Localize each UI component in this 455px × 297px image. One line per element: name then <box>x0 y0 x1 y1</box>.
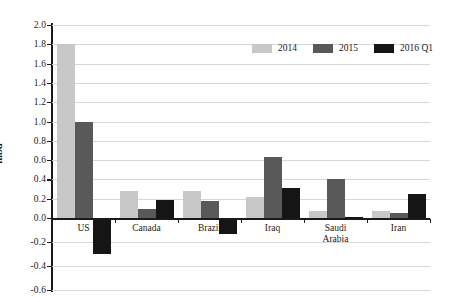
legend-swatch <box>374 44 394 53</box>
y-axis-tick-label: -0.2 <box>4 237 46 247</box>
legend-item: 2016 Q1 <box>374 43 433 53</box>
x-axis-tick <box>304 219 305 223</box>
y-axis-tick-label: 0.0 <box>4 213 46 223</box>
gridline <box>52 266 430 267</box>
gridline <box>52 102 430 103</box>
bar <box>201 201 219 218</box>
plot-area <box>52 25 430 290</box>
y-axis-tick-label: -0.4 <box>4 261 46 271</box>
legend-swatch <box>313 44 333 53</box>
gridline <box>52 160 430 161</box>
x-axis-category-label: Iran <box>359 223 439 234</box>
x-axis-tick <box>367 219 368 223</box>
bar <box>246 197 264 218</box>
legend-label: 2015 <box>339 43 358 53</box>
legend-label: 2016 Q1 <box>400 43 433 53</box>
bar <box>408 194 426 218</box>
bar <box>183 191 201 218</box>
x-axis-tick <box>52 219 53 223</box>
y-axis-tick <box>47 160 51 161</box>
bar <box>57 44 75 218</box>
gridline <box>52 83 430 84</box>
y-axis-tick-label: 0.2 <box>4 194 46 204</box>
gridline <box>52 199 430 200</box>
gridline <box>52 290 430 291</box>
x-axis-tick <box>430 219 431 223</box>
bar <box>327 179 345 218</box>
legend-label: 2014 <box>278 43 297 53</box>
bar <box>75 122 93 219</box>
y-axis-tick <box>47 44 51 45</box>
y-axis-tick <box>47 64 51 65</box>
gridline <box>52 122 430 123</box>
bar <box>138 209 156 218</box>
legend-swatch <box>252 44 272 53</box>
legend-item: 2015 <box>313 43 358 53</box>
y-axis-tick <box>47 25 51 26</box>
y-axis-tick <box>47 122 51 123</box>
y-axis-tick-label: 1.0 <box>4 117 46 127</box>
legend-item: 2014 <box>252 43 297 53</box>
bar <box>264 157 282 218</box>
y-axis-tick <box>47 141 51 142</box>
chart-legend: 201420152016 Q1 <box>252 43 449 53</box>
y-axis-tick <box>47 199 51 200</box>
y-axis-tick <box>47 218 51 219</box>
y-axis-tick-label: 1.2 <box>4 97 46 107</box>
bar <box>309 211 327 218</box>
gridline <box>52 64 430 65</box>
x-axis-tick <box>241 219 242 223</box>
y-axis-tick-label: 1.8 <box>4 39 46 49</box>
bar <box>282 188 300 218</box>
y-axis-tick <box>47 83 51 84</box>
bar <box>120 191 138 218</box>
gridline <box>52 25 430 26</box>
y-axis-labels: 2.01.81.61.41.21.00.80.60.40.20.0-0.2-0.… <box>0 0 46 297</box>
y-axis-tick-label: 0.4 <box>4 174 46 184</box>
y-axis-tick <box>47 266 51 267</box>
y-axis-title: mbd <box>0 143 4 163</box>
bar <box>372 211 390 218</box>
y-axis-tick-label: 0.6 <box>4 155 46 165</box>
bar <box>156 200 174 218</box>
y-axis-tick-label: -0.6 <box>4 285 46 295</box>
gridline <box>52 141 430 142</box>
gridline <box>52 179 430 180</box>
y-axis-tick-label: 1.6 <box>4 59 46 69</box>
bar-chart: 2.01.81.61.41.21.00.80.60.40.20.0-0.2-0.… <box>0 0 455 297</box>
x-axis-tick <box>115 219 116 223</box>
y-axis-tick <box>47 242 51 243</box>
y-axis-tick-label: 2.0 <box>4 20 46 30</box>
y-axis-tick <box>47 290 51 291</box>
y-axis-tick <box>47 179 51 180</box>
x-axis-tick <box>178 219 179 223</box>
y-axis-tick-label: 1.4 <box>4 78 46 88</box>
y-axis-tick-label: 0.8 <box>4 136 46 146</box>
y-axis-tick <box>47 102 51 103</box>
